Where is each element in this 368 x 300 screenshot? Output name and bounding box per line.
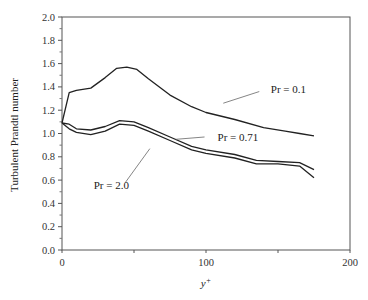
y-tick-label: 1.8 xyxy=(42,35,55,46)
series-line-2 xyxy=(62,123,314,178)
x-tick-label: 0 xyxy=(59,257,64,268)
series-line-1 xyxy=(62,121,314,170)
series-line-0 xyxy=(62,67,314,136)
y-tick-label: 2.0 xyxy=(42,12,55,23)
y-tick-label: 0.4 xyxy=(42,198,56,209)
annotation-leader xyxy=(176,137,205,139)
x-axis-label: y+ xyxy=(200,276,211,289)
annotation-leader xyxy=(223,92,259,104)
y-axis-ticks: 0.00.20.40.60.81.01.21.41.61.82.0 xyxy=(42,12,62,256)
x-tick-label: 100 xyxy=(198,257,214,268)
y-tick-label: 1.4 xyxy=(42,81,56,92)
y-tick-label: 1.0 xyxy=(42,128,55,139)
annotation-leader xyxy=(125,149,149,183)
annotation-label: Pr = 2.0 xyxy=(94,179,130,191)
y-tick-label: 0.6 xyxy=(42,175,55,186)
plot-frame xyxy=(62,17,350,250)
annotation-label: Pr = 0.1 xyxy=(271,83,306,95)
x-axis-ticks: 0100200 xyxy=(59,250,358,268)
y-tick-label: 1.6 xyxy=(42,58,55,69)
y-axis-label: Turbulent Prandtl number xyxy=(8,78,20,192)
y-tick-label: 0.2 xyxy=(42,221,55,232)
y-tick-label: 1.2 xyxy=(42,105,55,116)
annotation-label: Pr = 0.71 xyxy=(218,131,259,143)
plot-border xyxy=(62,17,350,250)
series-annotations: Pr = 0.1Pr = 0.71Pr = 2.0 xyxy=(94,83,306,191)
x-tick-label: 200 xyxy=(342,257,358,268)
line-chart: 0.00.20.40.60.81.01.21.41.61.82.0 010020… xyxy=(0,0,368,300)
y-tick-label: 0.8 xyxy=(42,151,55,162)
y-tick-label: 0.0 xyxy=(42,245,55,256)
